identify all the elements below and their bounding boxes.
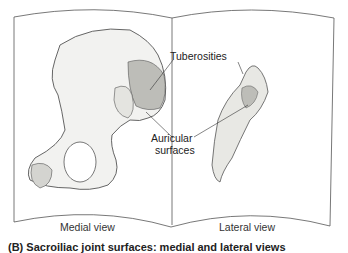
label-tuberosities: Tuberosities [170,50,227,62]
anatomy-illustration [0,0,348,253]
ilium-medial [28,29,165,189]
figure-caption: (B) Sacroiliac joint surfaces: medial an… [8,241,286,253]
view-label-medial: Medial view [60,221,115,233]
label-auricular-line1: Auricular [151,132,192,144]
view-label-lateral: Lateral view [219,221,275,233]
label-auricular-line2: surfaces [155,144,195,156]
book-frame [14,10,334,227]
sacrum-lateral [212,66,268,182]
